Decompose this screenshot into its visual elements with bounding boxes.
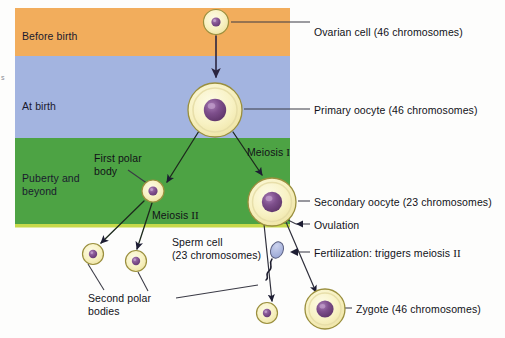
cell-secondary-oocyte [248, 178, 296, 226]
band-puberty-edge [15, 224, 290, 228]
label-meiosis-two-numeral: II [191, 209, 199, 221]
label-meiosis-two: Meiosis II [152, 209, 199, 222]
label-fertilization: Fertilization: triggers meiosis II [314, 247, 461, 260]
label-meiosis-one: Meiosis I [247, 146, 290, 159]
cell-second-polar-body-3 [257, 303, 278, 324]
label-ovulation: Ovulation [314, 219, 359, 232]
label-meiosis-two-text: Meiosis [152, 209, 191, 221]
label-fertilization-numeral: II [453, 247, 461, 259]
cell-second-polar-body-1 [83, 244, 104, 265]
label-ovarian-cell: Ovarian cell (46 chromosomes) [314, 26, 463, 39]
cell-second-polar-body-2 [126, 251, 147, 272]
leader-second-polar-3 [176, 285, 258, 298]
cell-zygote [305, 289, 345, 329]
cell-primary-oocyte [188, 83, 242, 137]
label-meiosis-one-numeral: I [286, 146, 290, 158]
label-fertilization-text: Fertilization: triggers meiosis [314, 247, 453, 259]
label-primary-oocyte: Primary oocyte (46 chromosomes) [314, 104, 478, 117]
band-label-puberty-and-beyond: Puberty and beyond [22, 172, 80, 197]
leader-second-polar-2 [138, 272, 148, 291]
label-first-polar-body: First polar body [94, 152, 142, 177]
label-sperm-cell: Sperm cell (23 chromosomes) [172, 236, 261, 261]
band-label-at-birth: At birth [22, 100, 56, 113]
oogenesis-figure: s [0, 0, 505, 338]
cell-ovarian-cell [204, 10, 229, 35]
ovulation-pointer [288, 220, 310, 228]
label-second-polar-bodies: Second polar bodies [88, 292, 151, 317]
cell-first-polar-body [142, 180, 164, 202]
label-meiosis-one-text: Meiosis [247, 146, 286, 158]
arrow-secondary-to-zygote [286, 222, 316, 292]
label-zygote: Zygote (46 chromosomes) [356, 303, 481, 316]
leader-second-polar-1 [88, 264, 104, 290]
label-secondary-oocyte: Secondary oocyte (23 chromosomes) [314, 196, 492, 209]
band-at-birth [15, 56, 290, 138]
band-label-before-birth: Before birth [22, 30, 77, 43]
diagram-canvas [0, 0, 505, 338]
